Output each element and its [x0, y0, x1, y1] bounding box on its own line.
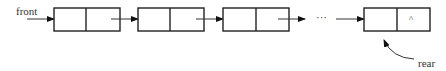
node-2-box: [138, 8, 204, 31]
list-node-4: ^: [364, 8, 430, 31]
linked-list-diagram: front ··· ^ rear: [0, 0, 446, 71]
rear-label: rear: [418, 57, 435, 69]
ellipsis: ···: [316, 11, 327, 23]
front-label: front: [16, 5, 37, 17]
list-node-1: [54, 8, 120, 31]
rear-pointer-arrow: [384, 40, 414, 59]
list-node-2: [138, 8, 204, 31]
node-1-box: [54, 8, 120, 31]
